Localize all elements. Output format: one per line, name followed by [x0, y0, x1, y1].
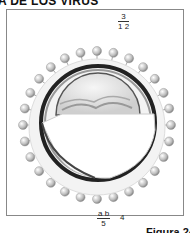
- label-3-12: 3 1 2: [118, 12, 129, 31]
- spike-glycoprotein-icon: [35, 74, 44, 83]
- spike-glycoprotein-icon: [165, 137, 174, 146]
- spike-glycoprotein-icon: [167, 121, 176, 130]
- spike-glycoprotein-icon: [165, 104, 174, 113]
- virus-illustration: [0, 0, 190, 233]
- spike-glycoprotein-icon: [46, 63, 55, 72]
- spike-glycoprotein-icon: [19, 121, 28, 130]
- spike-glycoprotein-icon: [159, 153, 168, 162]
- spike-glycoprotein-icon: [26, 153, 35, 162]
- spike-glycoprotein-icon: [150, 74, 159, 83]
- spike-glycoprotein-icon: [139, 63, 148, 72]
- spike-glycoprotein-icon: [20, 137, 29, 146]
- label-ab-5: a b 5: [97, 209, 110, 228]
- label-4: 4: [120, 213, 124, 222]
- spike-glycoprotein-icon: [93, 47, 102, 56]
- spike-glycoprotein-icon: [125, 54, 134, 63]
- spike-glycoprotein-icon: [20, 104, 29, 113]
- spike-glycoprotein-icon: [26, 88, 35, 97]
- spike-glycoprotein-icon: [159, 88, 168, 97]
- spike-glycoprotein-icon: [60, 54, 69, 63]
- spike-glycoprotein-icon: [93, 195, 102, 204]
- spike-glycoprotein-icon: [109, 48, 118, 57]
- figure-caption: Figura 24: [146, 226, 190, 233]
- spike-glycoprotein-icon: [76, 48, 85, 57]
